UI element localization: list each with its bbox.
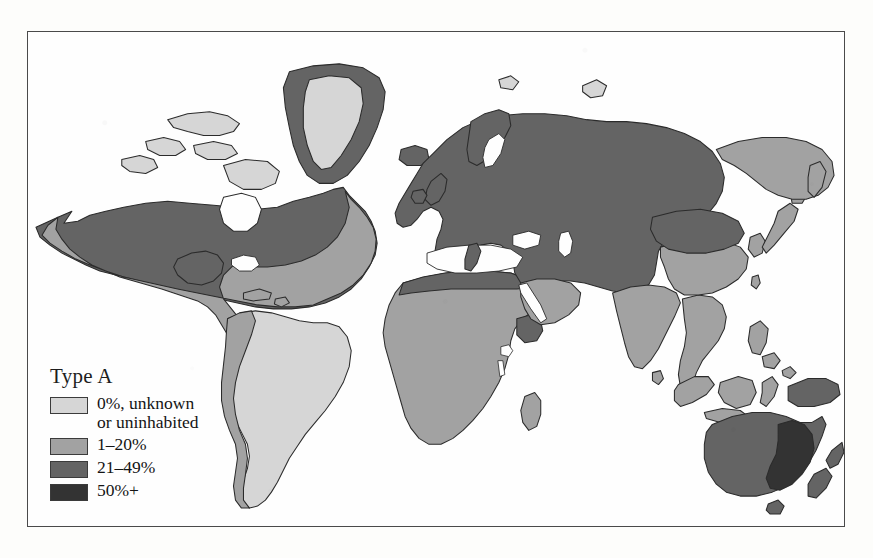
legend-label-2: 21–49%: [97, 458, 155, 477]
legend-swatch-0: [50, 397, 88, 414]
legend-title: Type A: [50, 366, 199, 387]
legend-item-1: 1–20%: [50, 435, 199, 455]
legend-label-0: 0%, unknown or uninhabited: [97, 394, 199, 432]
legend-item-2: 21–49%: [50, 458, 199, 478]
map-figure: .l { stroke: #2b2b2b; stroke-width: 1.05…: [27, 31, 845, 527]
legend-label-3: 50%+: [97, 481, 139, 500]
landmass-ireland: [411, 189, 427, 203]
caspian-sea: [559, 231, 573, 257]
legend-label-1: 1–20%: [97, 435, 147, 454]
map-legend: Type A 0%, unknown or uninhabited 1–20% …: [50, 366, 199, 504]
hudson-bay: [220, 193, 262, 231]
great-lakes: [232, 255, 260, 271]
legend-swatch-2: [50, 461, 88, 478]
legend-item-3: 50%+: [50, 481, 199, 501]
legend-swatch-3: [50, 484, 88, 501]
legend-swatch-1: [50, 438, 88, 455]
legend-item-0: 0%, unknown or uninhabited: [50, 394, 199, 432]
